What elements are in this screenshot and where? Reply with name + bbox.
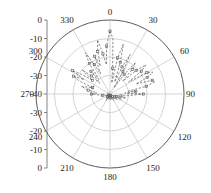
- data-trace-measured-pattern: [72, 31, 154, 100]
- angle-tick-label: 150: [146, 163, 160, 173]
- angle-tick-label: 180: [103, 172, 117, 182]
- grid-spoke: [110, 30, 147, 94]
- angle-tick-label: 210: [60, 163, 74, 173]
- polar-chart-svg: 0-10-20-30-40-30-20-100 0306090120150180…: [0, 0, 211, 193]
- angle-tick-label: 30: [149, 15, 159, 25]
- angle-tick-label: 330: [60, 15, 74, 25]
- db-tick-label: -30: [30, 108, 42, 118]
- grid-spoke: [73, 94, 110, 158]
- angle-tick-label: 300: [29, 46, 43, 56]
- db-tick-label: -10: [30, 34, 42, 44]
- db-tick-label: -30: [30, 71, 42, 81]
- db-tick-label: 0: [38, 15, 43, 25]
- angle-tick-label: 120: [178, 132, 192, 142]
- grid-spoke: [46, 94, 110, 131]
- db-tick-label: -10: [30, 145, 42, 155]
- grid-spoke: [46, 57, 110, 94]
- db-tick-label: 0: [38, 163, 43, 173]
- pattern-path: [72, 31, 154, 100]
- angle-tick-label: 60: [180, 46, 190, 56]
- angle-tick-label: 270: [21, 89, 35, 99]
- grid-spoke: [110, 94, 174, 131]
- polar-plot-figure: 0-10-20-30-40-30-20-100 0306090120150180…: [0, 0, 211, 193]
- angular-gridlines: [36, 20, 184, 168]
- angle-tick-label: 240: [29, 132, 43, 142]
- grid-spoke: [73, 30, 110, 94]
- grid-spoke: [110, 94, 147, 158]
- angle-tick-label: 0: [108, 7, 113, 17]
- angle-tick-label: 90: [186, 89, 196, 99]
